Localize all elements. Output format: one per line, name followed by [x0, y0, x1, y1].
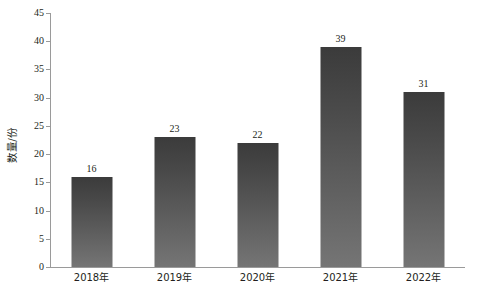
- y-tick-label: 45: [34, 8, 44, 18]
- y-tick-label: 10: [34, 206, 44, 216]
- x-tick-label: 2021年: [299, 272, 382, 284]
- plot-area: 16 23 22 39 31: [50, 13, 465, 268]
- y-tick-label: 15: [34, 177, 44, 187]
- bar-value-label: 39: [336, 34, 346, 44]
- bar[interactable]: [71, 177, 112, 267]
- y-tick-label: 40: [34, 36, 44, 46]
- x-tick-label: 2020年: [216, 272, 299, 284]
- y-tick-label: 30: [34, 93, 44, 103]
- bar[interactable]: [320, 47, 361, 267]
- bar[interactable]: [237, 143, 278, 267]
- bar-value-label: 22: [253, 130, 263, 140]
- bar-group: 22: [216, 13, 299, 267]
- bar[interactable]: [154, 137, 195, 267]
- y-axis-title: 数量/份: [0, 0, 22, 296]
- x-tick-label: 2018年: [50, 272, 133, 284]
- x-tick-label: 2022年: [382, 272, 465, 284]
- bar-group: 23: [133, 13, 216, 267]
- bar-group: 39: [299, 13, 382, 267]
- bar-chart: 数量/份 45 40 35 30 25 20 15 10 5 0 16 23: [0, 0, 477, 296]
- y-axis-tick-labels: 45 40 35 30 25 20 15 10 5 0: [20, 0, 48, 296]
- x-tick-label: 2019年: [133, 272, 216, 284]
- y-tick-label: 20: [34, 149, 44, 159]
- bar-group: 16: [50, 13, 133, 267]
- bar-value-label: 16: [87, 164, 97, 174]
- bar[interactable]: [403, 92, 444, 267]
- x-axis-tick-labels: 2018年 2019年 2020年 2021年 2022年: [50, 272, 465, 292]
- bar-value-label: 31: [419, 79, 429, 89]
- y-tick-label: 25: [34, 121, 44, 131]
- y-tick-label: 35: [34, 64, 44, 74]
- bar-group: 31: [382, 13, 465, 267]
- y-axis-title-text: 数量/份: [4, 127, 19, 163]
- y-tick-label: 0: [39, 262, 44, 272]
- y-tick-label: 5: [39, 234, 44, 244]
- bars-layer: 16 23 22 39 31: [50, 13, 465, 268]
- bar-value-label: 23: [170, 124, 180, 134]
